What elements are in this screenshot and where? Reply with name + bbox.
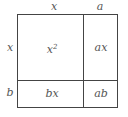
top-label-x: x: [44, 1, 64, 12]
horizontal-divider: [17, 80, 117, 81]
cell-x-squared-exponent: 2: [53, 43, 57, 51]
cell-ax: ax: [86, 42, 116, 53]
cell-x-squared: x2: [34, 42, 70, 55]
cell-bx: bx: [34, 88, 70, 99]
cell-ab: ab: [86, 88, 116, 99]
vertical-divider: [83, 14, 84, 107]
top-label-a: a: [90, 1, 110, 12]
side-label-b: b: [3, 87, 17, 98]
side-label-x: x: [3, 42, 17, 53]
